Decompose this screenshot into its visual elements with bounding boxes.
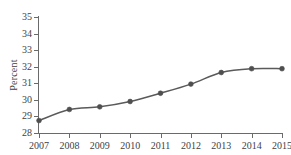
series-data-point <box>158 91 163 96</box>
line-chart: Percent 2829303132333435 200720082009201… <box>0 0 291 155</box>
series-data-point <box>188 82 193 87</box>
series-data-point <box>37 118 42 123</box>
series-data-point <box>219 70 224 75</box>
series-data-point <box>97 104 102 109</box>
series-data-point <box>249 66 254 71</box>
series-data-point <box>280 66 285 71</box>
series-data-point <box>128 99 133 104</box>
series-markers <box>37 66 285 123</box>
series-plot <box>0 0 291 155</box>
series-data-point <box>67 107 72 112</box>
